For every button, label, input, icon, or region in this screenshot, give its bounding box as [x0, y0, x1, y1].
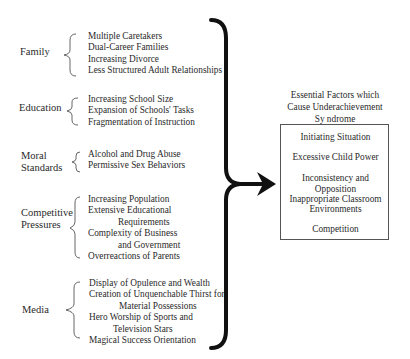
education-brace-icon [67, 98, 78, 125]
result-title: Essential Factors which Cause Underachie… [270, 89, 400, 125]
family-items: Multiple Caretakers Dual-Career Families… [88, 31, 222, 77]
factor-item: Competition [281, 224, 390, 235]
list-item: Material Possessions [89, 301, 225, 312]
list-item: Magical Success Orientation [89, 335, 225, 346]
moral-items: Alcohol and Drug Abuse Permissive Sex Be… [88, 149, 185, 172]
list-item: Overreactions of Parents [88, 251, 180, 262]
list-item: Multiple Caretakers [88, 31, 222, 42]
list-item: Hero Worship of Sports and [89, 312, 225, 323]
media-items: Display of Opulence and Wealth Creation … [89, 278, 225, 346]
label-line: Moral [21, 150, 62, 162]
list-item: Less Structured Adult Relationships [88, 65, 222, 76]
list-item: Complexity of Business [88, 228, 180, 239]
category-label-family: Family [20, 46, 50, 58]
list-item: Expansion of Schools' Tasks [88, 105, 195, 116]
list-item: Alcohol and Drug Abuse [88, 149, 185, 160]
list-item: Permissive Sex Behaviors [88, 160, 185, 171]
list-item: Increasing School Size [88, 94, 195, 105]
label-line: Standards [21, 162, 62, 174]
list-item: Television Stars [89, 324, 225, 335]
category-label-competitive-pressures: Competitive Pressures [21, 207, 73, 231]
moral-brace-icon [72, 152, 80, 172]
label-line: Pressures [21, 219, 73, 231]
competitive-items: Increasing Population Extensive Educatio… [88, 194, 180, 262]
list-item: Extensive Educational [88, 205, 180, 216]
title-line: Cause Underachievement [270, 101, 400, 113]
media-brace-icon [66, 282, 80, 338]
category-label-moral-standards: Moral Standards [21, 150, 62, 174]
list-item: Fragmentation of Instruction [88, 117, 195, 128]
education-items: Increasing School Size Expansion of Scho… [88, 94, 195, 128]
factors-box: Initiating Situation Excessive Child Pow… [280, 124, 389, 240]
factor-item: Inappropriate Classroom [281, 194, 390, 205]
factor-item: Initiating Situation [281, 132, 390, 143]
list-item: Dual-Career Families [88, 42, 222, 53]
list-item: Requirements [88, 217, 180, 228]
family-brace-icon [64, 34, 76, 76]
label-line: Competitive [21, 207, 73, 219]
factor-item: Inconsistency and Opposition [281, 173, 390, 194]
list-item: and Government [88, 240, 180, 251]
factor-item: Environments [281, 204, 390, 215]
category-label-media: Media [22, 304, 49, 316]
list-item: Increasing Population [88, 194, 180, 205]
list-item: Increasing Divorce [88, 54, 222, 65]
factor-item: Excessive Child Power [281, 152, 390, 163]
category-label-education: Education [19, 102, 62, 114]
title-line: Essential Factors which [270, 89, 400, 101]
list-item: Display of Opulence and Wealth [89, 278, 225, 289]
list-item: Creation of Unquenchable Thirst for [89, 289, 225, 300]
